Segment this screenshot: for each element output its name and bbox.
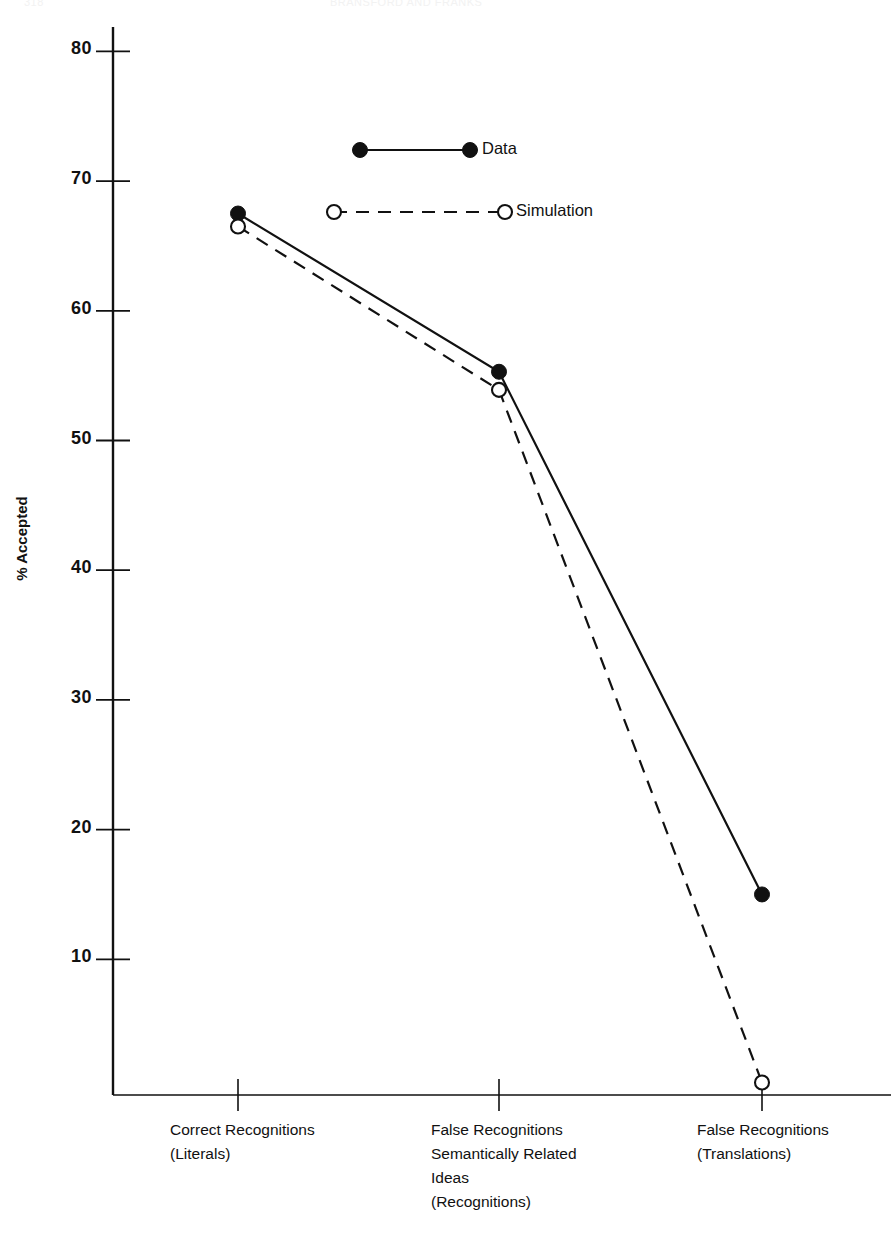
x-category-label-3: False Recognitions(Translations) bbox=[697, 1118, 829, 1166]
legend-marker-data-1 bbox=[353, 143, 368, 158]
x-category-label-line: False Recognitions bbox=[431, 1118, 577, 1142]
y-tick-label-20: 20 bbox=[46, 817, 92, 838]
legend-label-simulation: Simulation bbox=[516, 201, 593, 220]
legend-marker-simulation-1 bbox=[327, 205, 341, 219]
y-tick-label-60: 60 bbox=[46, 298, 92, 319]
series-line-data bbox=[238, 214, 762, 895]
x-category-label-1: Correct Recognitions(Literals) bbox=[170, 1118, 315, 1166]
x-category-label-line: False Recognitions bbox=[697, 1118, 829, 1142]
x-category-label-line: (Literals) bbox=[170, 1142, 315, 1166]
plot-area bbox=[0, 0, 891, 1246]
data-point-simulation-2 bbox=[492, 383, 506, 397]
y-tick-label-30: 30 bbox=[46, 687, 92, 708]
figure-panel: 318 BRANSFORD AND FRANKS % Accepted 1020… bbox=[0, 0, 891, 1246]
y-axis-title: % Accepted bbox=[13, 474, 30, 604]
legend-label-data: Data bbox=[482, 139, 517, 158]
y-tick-label-50: 50 bbox=[46, 428, 92, 449]
y-tick-label-70: 70 bbox=[46, 168, 92, 189]
page-header-fragment-left: 318 bbox=[24, 0, 44, 8]
x-category-label-line: Correct Recognitions bbox=[170, 1118, 315, 1142]
data-point-simulation-1 bbox=[231, 219, 245, 233]
legend-marker-data-2 bbox=[463, 143, 478, 158]
data-point-simulation-3 bbox=[755, 1076, 769, 1090]
series-line-simulation bbox=[238, 226, 762, 1082]
data-point-data-3 bbox=[755, 887, 770, 902]
legend-marker-simulation-2 bbox=[498, 205, 512, 219]
x-category-label-line: Ideas bbox=[431, 1166, 577, 1190]
x-category-label-2: False RecognitionsSemantically RelatedId… bbox=[431, 1118, 577, 1214]
y-tick-label-10: 10 bbox=[46, 946, 92, 967]
x-category-label-line: Semantically Related bbox=[431, 1142, 577, 1166]
page-header-fragment-center: BRANSFORD AND FRANKS bbox=[330, 0, 482, 8]
y-tick-label-80: 80 bbox=[46, 38, 92, 59]
x-category-label-line: (Translations) bbox=[697, 1142, 829, 1166]
data-point-data-2 bbox=[492, 364, 507, 379]
y-tick-label-40: 40 bbox=[46, 557, 92, 578]
x-category-label-line: (Recognitions) bbox=[431, 1190, 577, 1214]
